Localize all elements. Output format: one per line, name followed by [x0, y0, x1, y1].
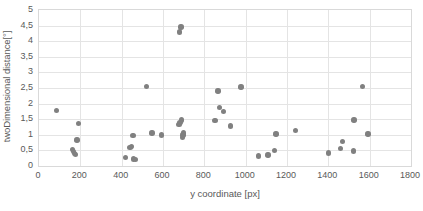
y-axis-tick-label: 1,5: [20, 113, 33, 123]
y-axis-title: twoDimensional distance[°]: [0, 0, 14, 172]
data-point: [212, 118, 217, 123]
x-axis-tick-label: 1800: [400, 170, 420, 180]
data-point: [265, 152, 270, 157]
gridline-horizontal: [39, 57, 411, 58]
data-point: [340, 139, 345, 144]
data-point: [326, 150, 331, 155]
x-axis-tick-label: 200: [72, 170, 87, 180]
data-point: [159, 132, 164, 137]
gridline-vertical: [328, 10, 329, 166]
data-point: [181, 130, 186, 135]
y-axis-tick-label: 0: [28, 160, 33, 170]
data-point: [293, 128, 298, 133]
data-point: [177, 29, 182, 34]
x-axis-tick-label: 800: [196, 170, 211, 180]
data-point: [179, 117, 184, 122]
data-point: [228, 123, 233, 128]
data-point: [123, 155, 128, 160]
y-axis-title-label: twoDimensional distance[°]: [2, 30, 13, 142]
data-point: [256, 153, 261, 158]
x-axis-tick-label: 1600: [359, 170, 379, 180]
gridline-vertical: [204, 10, 205, 166]
y-axis-tick-label: 2,5: [20, 82, 33, 92]
y-axis-tick-label: 2: [28, 98, 33, 108]
x-axis-tick-label: 0: [35, 170, 40, 180]
x-axis-tick-label: 1000: [235, 170, 255, 180]
data-point: [221, 109, 226, 114]
y-axis-tick-label: 4,5: [20, 20, 33, 30]
gridline-horizontal: [39, 41, 411, 42]
y-axis-tick-label: 4: [28, 35, 33, 45]
y-axis-tick-labels: 00,511,522,533,544,55: [14, 9, 36, 167]
x-axis-tick-label: 600: [154, 170, 169, 180]
x-axis-tick-label: 1400: [317, 170, 337, 180]
y-axis-tick-label: 3: [28, 66, 33, 76]
gridline-vertical: [287, 10, 288, 166]
gridline-vertical: [80, 10, 81, 166]
data-point: [365, 131, 370, 136]
data-point: [238, 84, 243, 89]
y-axis-tick-label: 3,5: [20, 51, 33, 61]
plot-area: [38, 9, 412, 167]
data-point: [149, 130, 154, 135]
y-axis-tick-label: 5: [28, 4, 33, 14]
gridline-horizontal: [39, 135, 411, 136]
data-point: [272, 148, 277, 153]
data-point: [133, 157, 138, 162]
data-point: [273, 131, 278, 136]
x-axis-tick-labels: 020040060080010001200140016001800: [38, 170, 412, 184]
data-point: [129, 144, 134, 149]
gridline-vertical: [370, 10, 371, 166]
gridline-vertical: [122, 10, 123, 166]
data-point: [74, 137, 79, 142]
data-point: [73, 152, 78, 157]
y-axis-tick-label: 0,5: [20, 144, 33, 154]
data-point: [338, 146, 343, 151]
y-axis-tick-label: 1: [28, 129, 33, 139]
gridline-horizontal: [39, 72, 411, 73]
scatter-chart: twoDimensional distance[°] 00,511,522,53…: [0, 0, 423, 211]
data-point: [54, 108, 59, 113]
gridline-vertical: [163, 10, 164, 166]
gridline-horizontal: [39, 104, 411, 105]
data-point: [178, 24, 183, 29]
x-axis-tick-label: 400: [113, 170, 128, 180]
data-point: [215, 88, 220, 93]
x-axis-tick-label: 1200: [276, 170, 296, 180]
data-point: [130, 133, 135, 138]
gridline-horizontal: [39, 88, 411, 89]
x-axis-title: y coordinate [px]: [38, 188, 412, 199]
data-point: [351, 148, 356, 153]
data-point: [351, 117, 356, 122]
gridline-horizontal: [39, 26, 411, 27]
gridline-vertical: [246, 10, 247, 166]
